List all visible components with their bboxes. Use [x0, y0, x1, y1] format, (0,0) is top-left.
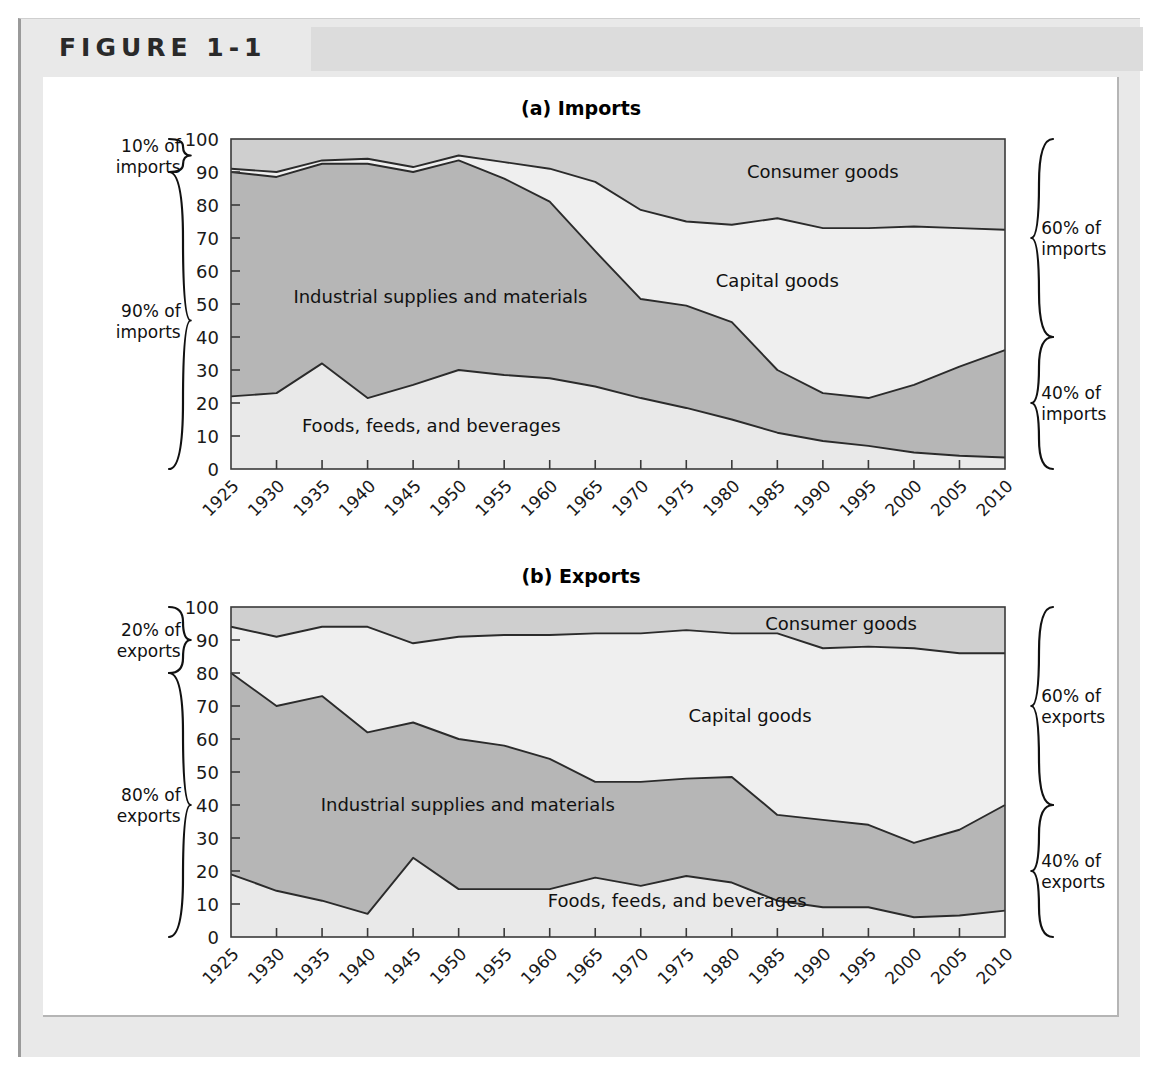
y-tick-label: 20 — [196, 861, 219, 882]
x-tick-label: 1935 — [289, 476, 334, 521]
x-tick-label: 1950 — [426, 944, 471, 989]
x-tick-label: 1965 — [562, 944, 607, 989]
x-tick-label: 2010 — [972, 476, 1017, 521]
y-tick-label: 80 — [196, 663, 219, 684]
x-tick-label: 1970 — [608, 944, 653, 989]
brace-40-percent-exports-label-line1: 40% of — [1041, 851, 1102, 871]
y-tick-label: 40 — [196, 795, 219, 816]
area-label-consumer-goods: Consumer goods — [747, 161, 899, 182]
x-tick-label: 1990 — [790, 944, 835, 989]
x-tick-label: 1930 — [244, 476, 289, 521]
brace-90-percent-imports — [169, 172, 191, 469]
x-tick-label: 2000 — [881, 476, 926, 521]
x-tick-label: 1940 — [335, 476, 380, 521]
brace-40-percent-imports-label-line2: imports — [1041, 404, 1106, 424]
area-label-consumer-goods: Consumer goods — [765, 613, 917, 634]
y-tick-label: 90 — [196, 630, 219, 651]
area-label-capital-goods: Capital goods — [716, 270, 839, 291]
x-tick-label: 1995 — [836, 476, 881, 521]
y-tick-label: 10 — [196, 426, 219, 447]
brace-90-percent-imports-label-line2: imports — [116, 322, 181, 342]
figure-title: FIGURE 1-1 — [59, 33, 266, 62]
x-tick-label: 1990 — [790, 476, 835, 521]
brace-60-percent-imports — [1031, 139, 1053, 337]
x-tick-label: 1995 — [836, 944, 881, 989]
y-tick-label: 10 — [196, 894, 219, 915]
brace-40-percent-imports-label-line1: 40% of — [1041, 383, 1102, 403]
y-tick-label: 30 — [196, 828, 219, 849]
x-tick-label: 1940 — [335, 944, 380, 989]
brace-90-percent-imports-label-line1: 90% of — [121, 301, 182, 321]
x-tick-label: 1975 — [653, 944, 698, 989]
x-tick-label: 1955 — [471, 476, 516, 521]
y-tick-label: 0 — [208, 927, 219, 948]
x-tick-label: 1970 — [608, 476, 653, 521]
x-tick-label: 1965 — [562, 476, 607, 521]
x-tick-label: 1960 — [517, 476, 562, 521]
brace-60-percent-exports — [1031, 607, 1053, 805]
x-tick-label: 2000 — [881, 944, 926, 989]
x-tick-label: 2010 — [972, 944, 1017, 989]
y-tick-label: 60 — [196, 729, 219, 750]
y-tick-label: 100 — [185, 129, 219, 150]
brace-80-percent-exports-label-line2: exports — [117, 806, 181, 826]
figure-inner-panel: (a) Imports 0102030405060708090100192519… — [43, 77, 1119, 1017]
brace-60-percent-exports-label-line2: exports — [1041, 707, 1105, 727]
x-tick-label: 2005 — [927, 476, 972, 521]
y-tick-label: 0 — [208, 459, 219, 480]
x-tick-label: 1925 — [198, 476, 243, 521]
y-tick-label: 60 — [196, 261, 219, 282]
x-tick-label: 1975 — [653, 476, 698, 521]
x-tick-label: 2005 — [927, 944, 972, 989]
y-tick-label: 50 — [196, 762, 219, 783]
y-tick-label: 100 — [185, 597, 219, 618]
area-label-foods: Foods, feeds, and beverages — [548, 890, 807, 911]
x-tick-label: 1980 — [699, 944, 744, 989]
brace-40-percent-exports — [1031, 805, 1053, 937]
brace-20-percent-exports-label-line1: 20% of — [121, 620, 182, 640]
x-tick-label: 1925 — [198, 944, 243, 989]
y-tick-label: 40 — [196, 327, 219, 348]
y-tick-label: 30 — [196, 360, 219, 381]
brace-40-percent-exports-label-line2: exports — [1041, 872, 1105, 892]
area-label-capital-goods: Capital goods — [688, 705, 811, 726]
figure-container: FIGURE 1-1 (a) Imports 01020304050607080… — [18, 18, 1140, 1057]
exports-area-chart: 0102030405060708090100192519301935194019… — [43, 545, 1119, 1015]
y-tick-label: 90 — [196, 162, 219, 183]
brace-80-percent-exports-label-line1: 80% of — [121, 785, 182, 805]
imports-area-chart: 0102030405060708090100192519301935194019… — [43, 77, 1119, 547]
area-label-industrial-supplies: Industrial supplies and materials — [293, 286, 587, 307]
y-tick-label: 70 — [196, 228, 219, 249]
brace-10-percent-imports-label-line1: 10% of — [121, 136, 182, 156]
y-tick-label: 20 — [196, 393, 219, 414]
chart-panel-imports: (a) Imports 0102030405060708090100192519… — [43, 77, 1119, 547]
figure-header-band — [311, 27, 1143, 71]
brace-60-percent-exports-label-line1: 60% of — [1041, 686, 1102, 706]
brace-60-percent-imports-label-line1: 60% of — [1041, 218, 1102, 238]
brace-20-percent-exports-label-line2: exports — [117, 641, 181, 661]
x-tick-label: 1930 — [244, 944, 289, 989]
brace-40-percent-imports — [1031, 337, 1053, 469]
y-tick-label: 50 — [196, 294, 219, 315]
x-tick-label: 1985 — [744, 944, 789, 989]
x-tick-label: 1945 — [380, 944, 425, 989]
x-tick-label: 1985 — [744, 476, 789, 521]
area-label-foods: Foods, feeds, and beverages — [302, 415, 561, 436]
figure-header: FIGURE 1-1 — [21, 19, 1140, 79]
brace-60-percent-imports-label-line2: imports — [1041, 239, 1106, 259]
x-tick-label: 1955 — [471, 944, 516, 989]
x-tick-label: 1950 — [426, 476, 471, 521]
x-tick-label: 1945 — [380, 476, 425, 521]
x-tick-label: 1980 — [699, 476, 744, 521]
y-tick-label: 70 — [196, 696, 219, 717]
y-tick-label: 80 — [196, 195, 219, 216]
x-tick-label: 1935 — [289, 944, 334, 989]
area-label-industrial-supplies: Industrial supplies and materials — [321, 794, 615, 815]
x-tick-label: 1960 — [517, 944, 562, 989]
brace-80-percent-exports — [169, 673, 191, 937]
chart-panel-exports: (b) Exports 0102030405060708090100192519… — [43, 545, 1119, 1015]
